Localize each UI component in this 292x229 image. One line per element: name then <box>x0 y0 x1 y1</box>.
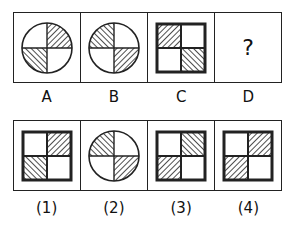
circle-quadrant-figure <box>87 21 141 75</box>
circle-quadrant-figure <box>20 21 74 75</box>
option-3[interactable] <box>148 121 215 190</box>
label-option-2: (2) <box>80 199 147 217</box>
question-mark: ? <box>242 35 254 60</box>
label-d: D <box>215 88 282 106</box>
square-quadrant-figure <box>20 129 74 183</box>
question-row: ? <box>13 12 282 83</box>
question-labels: A B C D <box>13 88 282 106</box>
option-labels: (1) (2) (3) (4) <box>13 199 282 217</box>
square-quadrant-figure <box>154 21 208 75</box>
label-a: A <box>13 88 80 106</box>
figure-d: ? <box>215 13 281 82</box>
label-option-1: (1) <box>13 199 80 217</box>
square-quadrant-figure <box>221 129 275 183</box>
figure-a <box>14 13 81 82</box>
options-row <box>13 120 282 191</box>
label-b: B <box>80 88 147 106</box>
option-1[interactable] <box>14 121 81 190</box>
figure-c <box>148 13 215 82</box>
label-option-4: (4) <box>215 199 282 217</box>
option-4[interactable] <box>215 121 281 190</box>
label-c: C <box>148 88 215 106</box>
figure-b <box>81 13 148 82</box>
square-quadrant-figure <box>154 129 208 183</box>
label-option-3: (3) <box>148 199 215 217</box>
option-2[interactable] <box>81 121 148 190</box>
circle-quadrant-figure <box>87 129 141 183</box>
